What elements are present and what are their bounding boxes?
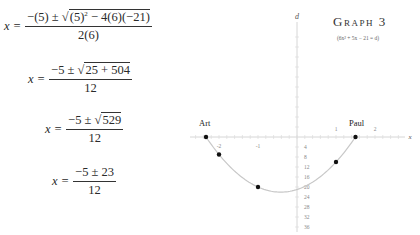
d-tick-label: 28 (304, 204, 310, 210)
data-point (256, 185, 260, 189)
x-axis-label: x (407, 133, 412, 141)
point-label-art: Art (199, 118, 210, 128)
data-point-art (204, 135, 208, 139)
graph-title: Graph 3 (333, 14, 387, 30)
d-tick-label: 40 (304, 234, 310, 235)
x-tick-label: 2 (374, 126, 377, 132)
data-point (334, 160, 338, 164)
point-label-paul: Paul (349, 118, 364, 128)
d-tick-label: 16 (304, 174, 310, 180)
graph-subtitle: (6x² + 5x − 21 = d) (337, 35, 379, 41)
x-tick-label: 1 (335, 126, 338, 132)
data-point-paul (353, 135, 357, 139)
x-tick-label: -2 (217, 143, 222, 149)
d-tick-label: 12 (304, 164, 310, 170)
d-tick-label: 24 (304, 194, 310, 200)
data-point (217, 152, 221, 156)
d-tick-label: 36 (304, 224, 310, 230)
parabola-curve (206, 137, 355, 192)
d-axis-label: d (295, 12, 300, 21)
d-tick-label: 32 (304, 214, 310, 220)
x-tick-label: -1 (256, 143, 261, 149)
d-tick-label: 4 (304, 144, 307, 150)
d-tick-label: 8 (304, 154, 307, 160)
